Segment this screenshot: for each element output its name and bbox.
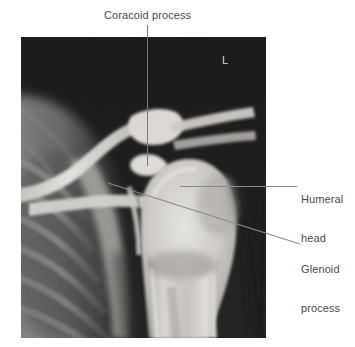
annotation-label-glenoid-line2: process — [301, 302, 340, 315]
annotation-label-coracoid: Coracoid process — [104, 9, 191, 22]
leader-line-humeral-head-icon — [180, 186, 297, 187]
radiograph-figure: L Coracoid process Humeral head Glenoid … — [0, 0, 355, 347]
annotation-label-glenoid: Glenoid process — [301, 237, 340, 341]
xray-image — [21, 37, 266, 338]
annotation-label-glenoid-line1: Glenoid — [301, 263, 340, 276]
side-marker-left: L — [222, 54, 228, 66]
xray-film: L — [21, 37, 266, 338]
leader-line-coracoid-icon — [147, 25, 148, 166]
annotation-label-humeral-head-line1: Humeral — [301, 193, 343, 206]
